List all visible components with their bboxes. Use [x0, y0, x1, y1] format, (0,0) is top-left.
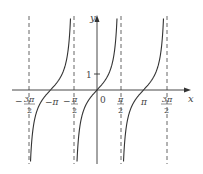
tick-pi: π [140, 97, 148, 107]
tick-pi-2-den: 2 [118, 106, 123, 115]
minus-sign: − [63, 96, 71, 106]
x-axis-arrow-icon [184, 88, 191, 93]
tick-neg-pi-2-den: 2 [72, 106, 77, 115]
origin-label: 0 [100, 95, 106, 105]
tick-neg-3pi-2-den: 2 [27, 106, 32, 115]
tick-neg-pi: −π [45, 97, 60, 107]
x-axis-label: x [188, 93, 194, 104]
minus-sign: − [15, 96, 23, 106]
tick-neg-3pi-2-num: 3π [24, 95, 35, 104]
y-tick-label-1: 1 [86, 70, 92, 80]
tan-graph: y x 1 0 − 3π 2 −π − π 2 π 2 π 3π 2 [0, 0, 203, 174]
tick-neg-pi-2-num: π [71, 95, 78, 104]
tick-3pi-2-den: 2 [164, 106, 169, 115]
tick-pi-2-num: π [117, 95, 124, 104]
y-axis-label: y [89, 12, 96, 23]
tick-3pi-2-num: 3π [162, 95, 173, 104]
